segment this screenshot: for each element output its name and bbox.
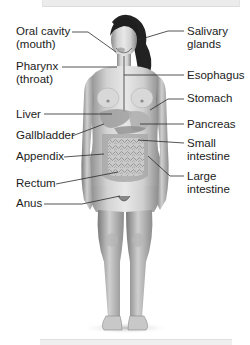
label-oral-cavity-line1: Oral cavity [16, 25, 70, 38]
leader-oral-cavity [72, 32, 116, 52]
label-gallbladder-text: Gallbladder [16, 129, 75, 142]
label-gallbladder: Gallbladder [16, 129, 75, 142]
label-stomach-text: Stomach [187, 92, 232, 105]
label-salivary-glands-line1: Salivary [187, 25, 228, 38]
label-oral-cavity-line2: (mouth) [16, 38, 70, 51]
label-oral-cavity: Oral cavity (mouth) [16, 25, 70, 51]
label-liver: Liver [16, 108, 41, 121]
label-esophagus: Esophagus [187, 69, 245, 82]
label-rectum: Rectum [16, 177, 56, 190]
label-rectum-text: Rectum [16, 177, 56, 190]
label-esophagus-text: Esophagus [187, 69, 245, 82]
label-small-intestine-line1: Small [187, 137, 230, 150]
leader-gallbladder [72, 124, 104, 136]
label-small-intestine-line2: intestine [187, 150, 230, 163]
label-salivary-glands: Salivary glands [187, 25, 228, 51]
label-anus-text: Anus [16, 197, 42, 210]
label-liver-text: Liver [16, 108, 41, 121]
leader-rectum [56, 172, 118, 184]
label-pancreas-text: Pancreas [187, 118, 236, 131]
leader-appendix [64, 154, 104, 157]
leader-small-intestine [138, 140, 184, 143]
label-anus: Anus [16, 197, 42, 210]
leader-stomach [150, 99, 184, 110]
label-large-intestine: Large intestine [187, 170, 230, 196]
leader-salivary-glands [138, 31, 184, 40]
label-appendix: Appendix [16, 150, 64, 163]
leader-anus [44, 196, 120, 204]
label-large-intestine-line2: intestine [187, 183, 230, 196]
leader-large-intestine [148, 156, 184, 176]
label-small-intestine: Small intestine [187, 137, 230, 163]
label-pancreas: Pancreas [187, 118, 236, 131]
label-pharynx: Pharynx (throat) [16, 60, 58, 86]
label-pharynx-line2: (throat) [16, 73, 58, 86]
label-appendix-text: Appendix [16, 150, 64, 163]
label-pharynx-line1: Pharynx [16, 60, 58, 73]
label-salivary-glands-line2: glands [187, 38, 228, 51]
bottom-frame-edge [40, 339, 232, 345]
label-stomach: Stomach [187, 92, 232, 105]
label-large-intestine-line1: Large [187, 170, 230, 183]
